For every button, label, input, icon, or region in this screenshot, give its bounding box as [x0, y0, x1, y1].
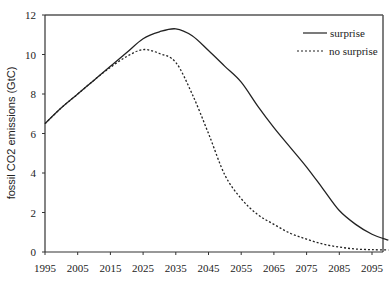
y-tick-label: 8	[31, 88, 37, 100]
y-tick-label: 4	[31, 167, 37, 179]
y-tick-label: 6	[31, 128, 37, 140]
x-tick-label: 2095	[361, 262, 384, 274]
x-tick-label: 2035	[165, 262, 188, 274]
y-tick-label: 12	[25, 9, 36, 21]
x-tick-label: 2075	[296, 262, 319, 274]
x-tick-label: 2045	[198, 262, 221, 274]
legend-label: no surprise	[329, 45, 378, 57]
line-chart: 024681012 199520052015202520352045205520…	[0, 0, 391, 282]
x-tick-label: 2005	[67, 262, 90, 274]
x-tick-label: 2015	[99, 262, 122, 274]
legend-item-surprise: surprise	[303, 27, 365, 39]
y-tick-label: 2	[31, 207, 37, 219]
series-group	[45, 29, 388, 250]
x-axis: 1995200520152025203520452055206520752085…	[34, 252, 384, 274]
y-axis-title: fossil CO2 emissions (GtC)	[5, 67, 17, 200]
y-axis: 024681012	[25, 9, 45, 258]
legend: surprise no surprise	[297, 27, 378, 57]
y-tick-label: 0	[31, 246, 37, 258]
x-tick-label: 2085	[328, 262, 351, 274]
x-tick-label: 2065	[263, 262, 286, 274]
x-tick-label: 2055	[230, 262, 253, 274]
legend-item-no-surprise: no surprise	[297, 45, 378, 57]
y-tick-label: 10	[25, 49, 37, 61]
x-tick-label: 2025	[132, 262, 155, 274]
x-tick-label: 1995	[34, 262, 57, 274]
series-line-no-surprise	[45, 49, 388, 250]
legend-label: surprise	[330, 27, 365, 39]
series-line-surprise	[45, 29, 388, 240]
